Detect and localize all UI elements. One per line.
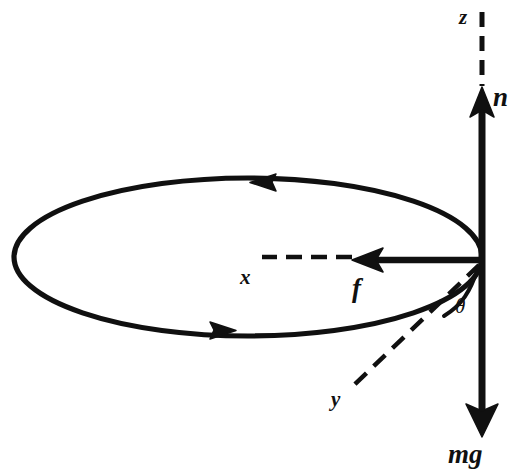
- y-axis-label: y: [331, 389, 340, 410]
- normal-force-label: n: [493, 84, 508, 111]
- weight-label: mg: [448, 441, 483, 468]
- diagram-canvas: [0, 0, 524, 474]
- physics-diagram-figure: z n x f θ y mg: [0, 0, 524, 474]
- theta-angle-label: θ: [455, 296, 465, 317]
- x-axis-label: x: [240, 267, 251, 288]
- z-axis-label: z: [459, 7, 467, 28]
- friction-force-label: f: [352, 275, 361, 302]
- friction-force-vector: [352, 248, 481, 272]
